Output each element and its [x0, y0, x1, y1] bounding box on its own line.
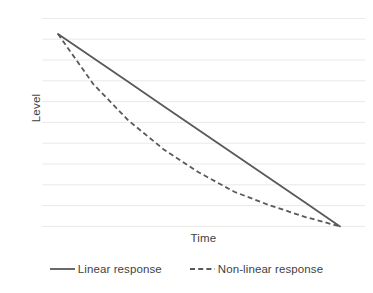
- series-line-linear-response: [58, 34, 340, 226]
- chart-legend: Linear response Non-linear response: [0, 258, 373, 280]
- legend-swatch-dashed-icon: [190, 264, 215, 274]
- plot-area: [42, 12, 365, 234]
- legend-label-linear-response: Linear response: [78, 262, 162, 276]
- legend-item-non-linear-response[interactable]: Non-linear response: [190, 262, 323, 276]
- plot-wrapper: Level Time: [0, 0, 373, 248]
- plot-svg: [42, 12, 365, 234]
- legend-item-linear-response[interactable]: Linear response: [50, 262, 162, 276]
- legend-label-non-linear-response: Non-linear response: [218, 262, 323, 276]
- x-axis-title: Time: [42, 228, 365, 248]
- legend-swatch-solid-icon: [50, 264, 75, 274]
- gridlines-group: [42, 19, 365, 227]
- chart-container: Level Time: [0, 0, 373, 293]
